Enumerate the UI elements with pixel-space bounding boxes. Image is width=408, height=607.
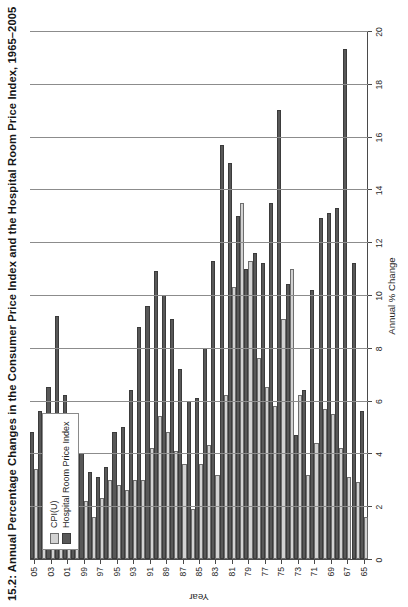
x-axis-tick-mark bbox=[67, 560, 68, 564]
x-axis-tick-label: 97 bbox=[95, 567, 105, 592]
y-axis-tick-label: 0 bbox=[374, 558, 384, 563]
x-axis-title: Year bbox=[189, 592, 208, 603]
bar-cpi-u bbox=[84, 501, 88, 559]
bar-cpi-u bbox=[108, 480, 112, 559]
chart-figure: 15.2: Annual Percentage Changes in the C… bbox=[0, 0, 408, 607]
bar-cpi-u bbox=[306, 475, 310, 559]
x-axis-tick-mark bbox=[281, 560, 282, 564]
bar-cpi-u bbox=[215, 475, 219, 559]
legend-item[interactable]: CPI(U) bbox=[49, 421, 59, 544]
bar-cpi-u bbox=[150, 448, 154, 559]
x-axis-tick-mark bbox=[347, 560, 348, 564]
bar-cpi-u bbox=[92, 517, 96, 559]
bar-cpi-u bbox=[224, 395, 228, 559]
x-axis-tick-label: 85 bbox=[194, 567, 204, 592]
y-axis-tick-label: 2 bbox=[374, 505, 384, 510]
gridline bbox=[30, 189, 368, 190]
x-axis-tick-label: 65 bbox=[359, 567, 369, 592]
y-axis-tick-label: 8 bbox=[374, 346, 384, 351]
bar-cpi-u bbox=[141, 480, 145, 559]
x-axis-tick-mark bbox=[34, 560, 35, 564]
x-axis-tick-label: 91 bbox=[145, 567, 155, 592]
bar-cpi-u bbox=[34, 469, 38, 559]
x-axis-tick-mark bbox=[100, 560, 101, 564]
plot-area bbox=[30, 32, 368, 560]
bar-cpi-u bbox=[364, 517, 368, 559]
x-axis-tick-mark bbox=[265, 560, 266, 564]
x-axis-tick-label: 71 bbox=[309, 567, 319, 592]
x-axis-tick-mark bbox=[314, 560, 315, 564]
y-axis-tick-mark bbox=[368, 242, 372, 243]
x-axis-tick-label: 83 bbox=[210, 567, 220, 592]
legend-item[interactable]: Hospital Room Price Index bbox=[61, 421, 71, 544]
bar-cpi-u bbox=[191, 509, 195, 559]
x-axis-tick-mark bbox=[331, 560, 332, 564]
bar-cpi-u bbox=[265, 387, 269, 559]
x-axis-tick-mark bbox=[166, 560, 167, 564]
y-axis-title: Annual % Change bbox=[386, 32, 397, 560]
legend-swatch-hosp bbox=[62, 533, 71, 544]
y-axis-tick-label: 18 bbox=[374, 80, 384, 90]
bar-cpi-u bbox=[182, 464, 186, 559]
bar-cpi-u bbox=[290, 269, 294, 559]
bar-cpi-u bbox=[314, 443, 318, 559]
x-axis-tick-label: 77 bbox=[260, 567, 270, 592]
bar-cpi-u bbox=[257, 358, 261, 559]
bar-cpi-u bbox=[199, 464, 203, 559]
y-axis-tick-label: 20 bbox=[374, 27, 384, 37]
bar-cpi-u bbox=[248, 261, 252, 559]
bar-cpi-u bbox=[339, 448, 343, 559]
y-axis-tick-label: 10 bbox=[374, 291, 384, 301]
chart-legend: CPI(U)Hospital Room Price Index bbox=[42, 413, 79, 550]
y-axis-tick-mark bbox=[368, 137, 372, 138]
bar-cpi-u bbox=[273, 406, 277, 559]
y-axis-tick-label: 12 bbox=[374, 238, 384, 248]
y-axis-tick-label: 14 bbox=[374, 186, 384, 196]
gridline bbox=[30, 242, 368, 243]
bar-cpi-u bbox=[323, 409, 327, 559]
bar-cpi-u bbox=[331, 414, 335, 559]
x-axis-tick-label: 95 bbox=[112, 567, 122, 592]
bar-cpi-u bbox=[207, 445, 211, 559]
x-axis-tick-label: 67 bbox=[342, 567, 352, 592]
x-axis-tick-mark bbox=[232, 560, 233, 564]
x-axis-tick-mark bbox=[117, 560, 118, 564]
legend-label: CPI(U) bbox=[49, 501, 59, 529]
y-axis-tick-label: 6 bbox=[374, 399, 384, 404]
x-axis-tick-mark bbox=[298, 560, 299, 564]
x-axis-tick-mark bbox=[215, 560, 216, 564]
x-axis-tick-mark bbox=[133, 560, 134, 564]
x-axis-tick-mark bbox=[84, 560, 85, 564]
y-axis-tick-mark bbox=[368, 348, 372, 349]
chart-title: 15.2: Annual Percentage Changes in the C… bbox=[6, 5, 19, 601]
x-axis-tick-label: 87 bbox=[178, 567, 188, 592]
y-axis-tick-mark bbox=[368, 506, 372, 507]
x-axis-tick-mark bbox=[248, 560, 249, 564]
gridline bbox=[30, 401, 368, 402]
bar-cpi-u bbox=[281, 319, 285, 559]
y-axis-tick-label: 16 bbox=[374, 133, 384, 143]
x-axis-tick-label: 05 bbox=[29, 567, 39, 592]
x-axis-tick-label: 93 bbox=[128, 567, 138, 592]
y-axis-tick-mark bbox=[368, 401, 372, 402]
y-axis-tick-mark bbox=[368, 453, 372, 454]
bar-cpi-u bbox=[158, 416, 162, 559]
y-axis-tick-label: 4 bbox=[374, 452, 384, 457]
x-axis-tick-label: 79 bbox=[243, 567, 253, 592]
gridline bbox=[30, 137, 368, 138]
x-axis-tick-label: 69 bbox=[326, 567, 336, 592]
x-axis-tick-mark bbox=[150, 560, 151, 564]
gridline bbox=[30, 84, 368, 85]
x-axis-tick-mark bbox=[51, 560, 52, 564]
gridline bbox=[30, 295, 368, 296]
bar-cpi-u bbox=[174, 451, 178, 559]
gridline bbox=[30, 348, 368, 349]
y-axis-tick-mark bbox=[368, 84, 372, 85]
bar-cpi-u bbox=[232, 287, 236, 559]
y-axis-tick-mark bbox=[368, 31, 372, 32]
y-axis-tick-mark bbox=[368, 559, 372, 560]
bar-cpi-u bbox=[347, 477, 351, 559]
x-axis-tick-label: 75 bbox=[276, 567, 286, 592]
bar-cpi-u bbox=[298, 395, 302, 559]
legend-swatch-cpi bbox=[50, 533, 59, 544]
